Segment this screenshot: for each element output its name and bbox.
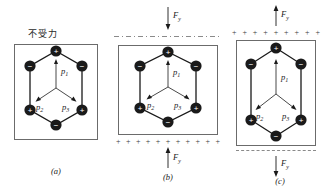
dipole-vectors	[36, 59, 77, 102]
svg-text:+: +	[80, 106, 85, 115]
svg-text:+: +	[54, 47, 59, 56]
svg-text:−: −	[28, 62, 33, 71]
panel-b-force-arrow-bottom	[112, 0, 224, 193]
panel-c-force-label-bottom: Fy	[281, 158, 289, 170]
force-subscript-bottom: y	[178, 158, 181, 164]
svg-text:−: −	[54, 121, 59, 130]
dipole-labels: p1 p2 p3	[35, 66, 69, 113]
dipole-label-p1: p1	[60, 66, 68, 77]
panel-a-lattice: + − + − + − p1 p2 p3	[0, 0, 112, 193]
panel-b-caption: (b)	[112, 172, 224, 182]
panel-a: 不受力 + − + −	[0, 0, 112, 193]
svg-text:−: −	[80, 62, 85, 71]
piezoelectric-lattice-figure: 不受力 + − + −	[0, 0, 336, 193]
force-subscript-bottom: y	[286, 164, 289, 170]
panel-c: Fy +++++++++ + − + −	[224, 0, 336, 193]
panel-a-caption: (a)	[0, 166, 112, 176]
panel-b-force-label-bottom: Fy	[173, 152, 181, 164]
dipole-label-p3: p3	[61, 102, 69, 113]
panel-b: Fy + − + −	[112, 0, 224, 193]
dipole-label-p2: p2	[35, 102, 43, 113]
svg-text:+: +	[28, 106, 33, 115]
panel-c-force-arrow-bottom	[224, 0, 336, 193]
panel-c-caption: (c)	[224, 176, 336, 186]
